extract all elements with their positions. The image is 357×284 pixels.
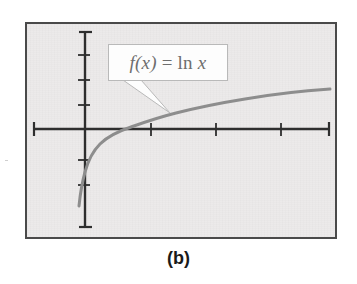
- figure-caption: (b): [0, 248, 357, 269]
- function-label: f(x) = ln x: [130, 52, 207, 74]
- function-callout-box: f(x) = ln x: [108, 44, 228, 81]
- paper-speck: [5, 160, 8, 161]
- x-axis: [33, 122, 330, 136]
- function-label-x: x: [198, 52, 207, 73]
- function-label-equals: =: [157, 52, 178, 73]
- plot-graphics: [0, 0, 357, 284]
- function-label-ln: ln: [178, 52, 198, 73]
- curve-ln-x: [79, 89, 330, 206]
- function-label-fx: f(x): [130, 52, 157, 73]
- callout-tail: [123, 80, 170, 113]
- figure-container: f(x) = ln x (b): [0, 0, 357, 284]
